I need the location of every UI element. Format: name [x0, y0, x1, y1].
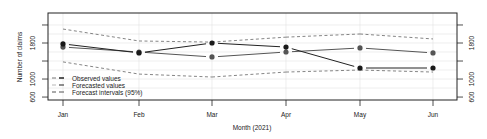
observed-point — [283, 44, 288, 49]
series-segment — [286, 34, 360, 37]
y-tick-label-right: 600 — [468, 91, 475, 102]
legend-observed-label: Observed values — [72, 75, 122, 82]
series-segment — [63, 29, 139, 41]
x-tick-label: Apr — [281, 111, 292, 119]
observed-point — [60, 41, 65, 46]
forecast-point — [283, 49, 288, 54]
series-segment — [139, 41, 212, 42]
series-segment — [360, 34, 433, 39]
series-segment — [212, 72, 286, 77]
observed-point — [357, 65, 362, 70]
series-segment — [63, 62, 139, 74]
forecast-point — [209, 54, 214, 59]
series-segment — [292, 49, 354, 67]
series-segment — [218, 43, 280, 46]
y-axis-right: 60010001800 — [457, 25, 475, 103]
x-tick-label: May — [354, 111, 367, 119]
series-segment — [218, 52, 280, 56]
x-tick-label: Feb — [133, 111, 145, 118]
forecast-point — [357, 45, 362, 50]
observed-point — [209, 40, 214, 45]
x-tick-label: Jan — [58, 111, 69, 118]
series-segment — [139, 74, 212, 77]
series-segment — [145, 44, 206, 52]
y-tick-label-left: 1000 — [29, 71, 36, 86]
forecast-point — [430, 50, 435, 55]
legend-intervals-label: Forecast intervals (95%) — [72, 89, 142, 97]
y-tick-label-right: 1000 — [468, 71, 475, 86]
forecast-chart: 60010001800 60010001800 JanFebMarAprMayJ… — [0, 0, 487, 139]
y-tick-label-left: 600 — [29, 91, 36, 102]
series-segment — [212, 37, 286, 42]
y-axis-title: Number of claims — [16, 31, 23, 82]
x-tick-label: Jun — [428, 111, 439, 118]
y-tick-label-left: 1800 — [29, 35, 36, 50]
x-tick-label: Mar — [206, 111, 218, 118]
x-axis-title: Month (2021) — [233, 124, 272, 132]
series-segment — [360, 70, 433, 72]
x-axis: JanFebMarAprMayJun — [58, 100, 439, 119]
legend: Observed values Forecasted values Foreca… — [52, 75, 142, 97]
legend-forecasted-label: Forecasted values — [72, 82, 126, 89]
y-tick-label-right: 1800 — [468, 35, 475, 50]
observed-point — [136, 50, 141, 55]
observed-point — [430, 65, 435, 70]
series-segment — [286, 70, 360, 72]
y-axis-left: 60010001800 — [29, 25, 48, 103]
series-segment — [145, 52, 206, 56]
